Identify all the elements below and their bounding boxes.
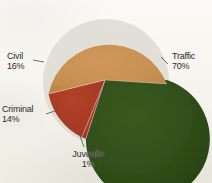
slice-label-traffic-percent: 70% <box>172 61 195 71</box>
slice-label-traffic: Traffic 70% <box>172 51 195 71</box>
slice-label-civil-percent: 16% <box>7 61 24 71</box>
slice-label-criminal: Criminal 14% <box>2 104 33 124</box>
slice-label-criminal-percent: 14% <box>2 114 33 124</box>
slice-label-criminal-name: Criminal <box>2 104 33 114</box>
pie-chart-figure: Traffic 70% Civil 16% Criminal 14% Juven… <box>0 0 212 183</box>
leader-line-civil <box>33 60 44 62</box>
slice-label-juvenile-name: Juvenile <box>72 149 103 159</box>
slice-label-juvenile-percent: 1% <box>60 159 116 169</box>
slice-label-civil-name: Civil <box>7 51 23 61</box>
slice-label-juvenile: Juvenile 1% <box>60 149 116 169</box>
slice-label-traffic-name: Traffic <box>172 51 195 61</box>
slice-label-civil: Civil 16% <box>7 51 24 71</box>
